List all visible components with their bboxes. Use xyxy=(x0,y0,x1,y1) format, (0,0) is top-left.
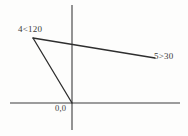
vector-diagram-figure: 4<120 5>30 0,0 xyxy=(0,0,188,136)
vector-segment-5-at-30 xyxy=(33,38,155,58)
origin-label: 0,0 xyxy=(55,103,66,113)
vector-segment-4-at-120 xyxy=(33,38,72,103)
vector-diagram-canvas xyxy=(0,0,188,136)
vector-label-5-at-30: 5>30 xyxy=(154,51,173,61)
vector-label-4-at-120: 4<120 xyxy=(18,24,42,34)
